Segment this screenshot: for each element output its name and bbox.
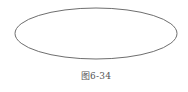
ellipse-shape [15,8,177,59]
figure-caption: 图6-34 [0,69,188,82]
